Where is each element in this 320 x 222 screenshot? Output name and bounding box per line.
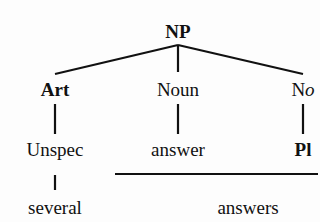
edge-np-art	[55, 45, 178, 74]
node-no-suffix: o	[305, 79, 315, 100]
node-noun: Noun	[157, 80, 199, 99]
node-no-base: N	[291, 79, 305, 100]
surface-answers: answers	[217, 198, 278, 217]
node-no: No	[291, 80, 314, 99]
node-unspec: Unspec	[27, 140, 84, 159]
node-art: Art	[41, 80, 69, 99]
edge-np-no	[178, 45, 303, 74]
node-answer: answer	[151, 140, 205, 159]
node-np: NP	[165, 22, 190, 41]
node-pl: Pl	[295, 140, 312, 159]
surface-several: several	[28, 198, 82, 217]
syntax-tree-diagram: NP Art Noun No Unspec answer Pl several …	[0, 0, 320, 222]
tree-edges	[0, 0, 320, 222]
